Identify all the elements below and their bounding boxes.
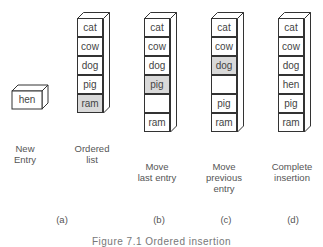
list-cell: cow — [144, 37, 170, 56]
figure-caption: Figure 7.1 Ordered insertion — [0, 236, 323, 247]
list-cell-empty — [211, 75, 237, 94]
subfigure-label-c: (c) — [211, 214, 241, 225]
list-cell: cat — [144, 18, 170, 37]
list-cell: ram — [144, 113, 170, 132]
subfigure-label-d: (d) — [278, 214, 308, 225]
subfigure-label-b: (b) — [144, 214, 174, 225]
list-cell: cat — [77, 18, 103, 37]
column-b-label: Move last entry — [131, 161, 183, 183]
list-cell: dog — [77, 56, 103, 75]
list-cell: ram — [278, 113, 304, 132]
list-cell-inserted: hen — [278, 75, 304, 94]
list-cell: cow — [77, 37, 103, 56]
column-c-label: Move previous entry — [198, 161, 250, 194]
list-cell: cat — [278, 18, 304, 37]
subfigure-label-a: (a) — [47, 214, 77, 225]
list-cell-highlighted: ram — [77, 94, 103, 113]
list-cell: ram — [211, 113, 237, 132]
list-cell-empty — [144, 94, 170, 113]
new-entry-value: hen — [12, 92, 42, 108]
list-cell: pig — [77, 75, 103, 94]
column-d-label: Complete insertion — [264, 161, 320, 183]
new-entry-label: New Entry — [8, 143, 42, 165]
list-cell: pig — [211, 94, 237, 113]
list-cell: cow — [211, 37, 237, 56]
list-cell: cat — [211, 18, 237, 37]
list-cell: dog — [144, 56, 170, 75]
list-cell-highlighted: dog — [211, 56, 237, 75]
list-cell: dog — [278, 56, 304, 75]
list-cell-highlighted: pig — [144, 75, 170, 94]
column-a-label: Ordered list — [66, 143, 118, 165]
list-cell: cow — [278, 37, 304, 56]
list-cell: pig — [278, 94, 304, 113]
